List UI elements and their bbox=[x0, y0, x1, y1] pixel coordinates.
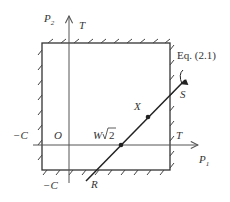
equation-label: Eq. (2.1) bbox=[177, 49, 216, 62]
point-w-sqrt2 bbox=[119, 143, 124, 148]
svg-text:2: 2 bbox=[109, 129, 115, 141]
p2-axis-label: P2 bbox=[43, 12, 55, 27]
feasible-region-box bbox=[42, 43, 170, 170]
t-horizontal-label: T bbox=[176, 129, 183, 141]
neg-c-horizontal-label: −C bbox=[13, 129, 28, 141]
strategy-space-diagram: P2 T Eq. (2.1) S X −C O W 2 T P1 −C R bbox=[0, 0, 230, 202]
neg-c-vertical-label: −C bbox=[43, 179, 58, 191]
s-label: S bbox=[180, 88, 186, 100]
r-label: R bbox=[90, 178, 98, 190]
x-label: X bbox=[133, 100, 142, 112]
bottom-hatch-marks bbox=[43, 170, 164, 175]
svg-text:W: W bbox=[93, 129, 103, 141]
origin-label: O bbox=[54, 129, 62, 141]
p1-axis-label: P1 bbox=[198, 153, 209, 168]
point-x bbox=[146, 115, 151, 120]
w-sqrt2-label: W 2 bbox=[93, 128, 116, 141]
t-vertical-label: T bbox=[79, 19, 86, 31]
